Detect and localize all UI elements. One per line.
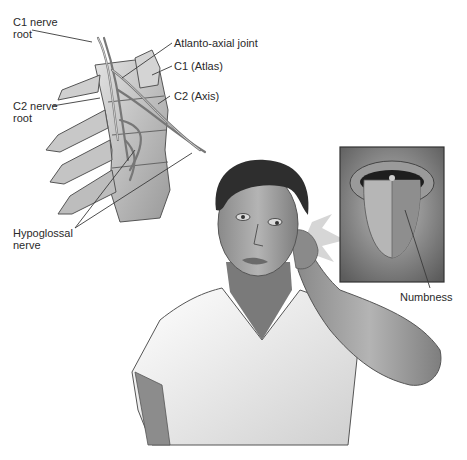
tongue-inset	[340, 147, 444, 288]
label-c1-atlas: C1 (Atlas)	[174, 60, 223, 72]
label-atlanto-axial-joint: Atlanto-axial joint	[174, 37, 258, 49]
label-hypoglossal-nerve: Hypoglossal nerve	[13, 227, 73, 251]
label-c2-axis: C2 (Axis)	[174, 90, 219, 102]
label-numbness: Numbness	[400, 291, 453, 303]
label-c2-nerve-root: C2 nerve root	[13, 100, 58, 124]
label-c1-nerve-root: C1 nerve root	[13, 16, 58, 40]
right-eye	[268, 219, 282, 226]
medical-illustration: C1 nerve root Atlanto-axial joint C1 (At…	[0, 0, 467, 460]
